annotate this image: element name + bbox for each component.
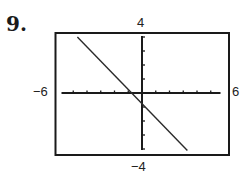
axes [62,36,221,150]
graph-plot [0,0,243,180]
